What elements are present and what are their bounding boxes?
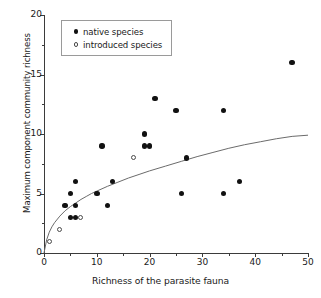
y-tick-label: 5 (2, 188, 42, 198)
legend-item-native: native species (69, 25, 162, 38)
x-tick-minor (229, 253, 230, 256)
x-tick-label: 40 (235, 257, 275, 267)
data-point (142, 131, 147, 136)
y-tick-label: 10 (2, 128, 42, 138)
filled-circle-icon (69, 29, 83, 34)
y-tick-label: 0 (2, 247, 42, 257)
legend-item-introduced: introduced species (69, 38, 162, 51)
y-tick-label: 15 (2, 69, 42, 79)
y-tick-label: 20 (2, 9, 42, 19)
data-point (147, 143, 152, 148)
data-point (62, 203, 67, 208)
x-axis-label: Richness of the parasite fauna (0, 275, 321, 286)
data-point (105, 203, 110, 208)
x-tick-minor (70, 253, 71, 256)
x-tick-label: 20 (130, 257, 170, 267)
x-tick-label: 30 (182, 257, 222, 267)
data-point (173, 108, 178, 113)
data-point (221, 108, 226, 113)
data-point (184, 155, 189, 160)
x-tick-label: 50 (288, 257, 321, 267)
data-point (47, 239, 52, 244)
y-axis-label: Maximum component community richness (22, 3, 32, 243)
x-tick-minor (176, 253, 177, 256)
data-point (152, 96, 157, 101)
x-tick-minor (123, 253, 124, 256)
legend-label-native: native species (83, 27, 143, 37)
x-tick-minor (282, 253, 283, 256)
x-tick-label: 10 (77, 257, 117, 267)
legend-label-introduced: introduced species (83, 40, 162, 50)
open-circle-icon (69, 42, 83, 47)
scatter-chart: Maximum component community richness Ric… (0, 0, 321, 298)
data-point (94, 191, 99, 196)
legend: native species introduced species (61, 20, 172, 56)
x-tick-label: 0 (24, 257, 64, 267)
data-point (99, 143, 104, 148)
